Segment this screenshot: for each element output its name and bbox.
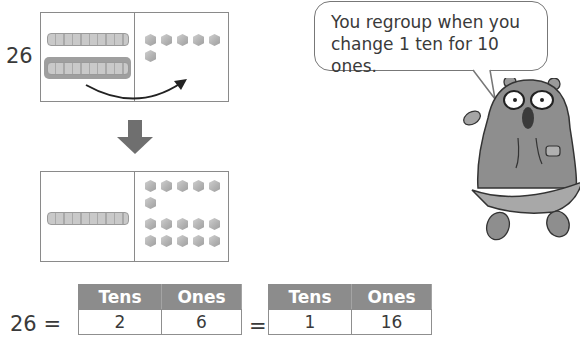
one-cube [209, 235, 220, 247]
one-cube [161, 235, 172, 247]
one-cube [161, 218, 172, 230]
one-cube [145, 218, 156, 230]
table2-header-tens: Tens [269, 285, 352, 310]
table1-value-ones: 6 [162, 310, 242, 335]
table1-header-ones: Ones [162, 285, 242, 310]
equals-sign: = [249, 314, 267, 338]
number-label-26: 26 [6, 44, 33, 68]
curved-arrow-icon [41, 13, 230, 103]
table1-header-tens: Tens [79, 285, 162, 310]
one-cube [177, 235, 188, 247]
equation-lhs: 26 = [10, 312, 61, 336]
place-value-model-after [40, 171, 229, 262]
one-cube [177, 218, 188, 230]
one-cube [161, 180, 172, 192]
place-value-table-2: Tens Ones 1 16 [268, 284, 432, 335]
one-cube [145, 197, 156, 209]
speech-bubble: You regroup when you change 1 ten for 10… [314, 1, 548, 71]
one-cube [177, 180, 188, 192]
bear-character-icon [458, 78, 580, 246]
one-cube [209, 218, 220, 230]
table2-value-tens: 1 [269, 310, 352, 335]
one-cube [193, 218, 204, 230]
one-cube [145, 235, 156, 247]
one-cube [193, 180, 204, 192]
down-arrow-icon [117, 120, 153, 154]
speech-line-1: You regroup when you [331, 11, 535, 33]
place-value-divider [134, 172, 135, 261]
ten-rod [47, 212, 129, 225]
one-cube [145, 180, 156, 192]
one-cube [193, 235, 204, 247]
place-value-table-1: Tens Ones 2 6 [78, 284, 242, 335]
table1-value-tens: 2 [79, 310, 162, 335]
table2-header-ones: Ones [352, 285, 432, 310]
one-cube [209, 180, 220, 192]
place-value-model-before [40, 12, 229, 102]
table2-value-ones: 16 [352, 310, 432, 335]
